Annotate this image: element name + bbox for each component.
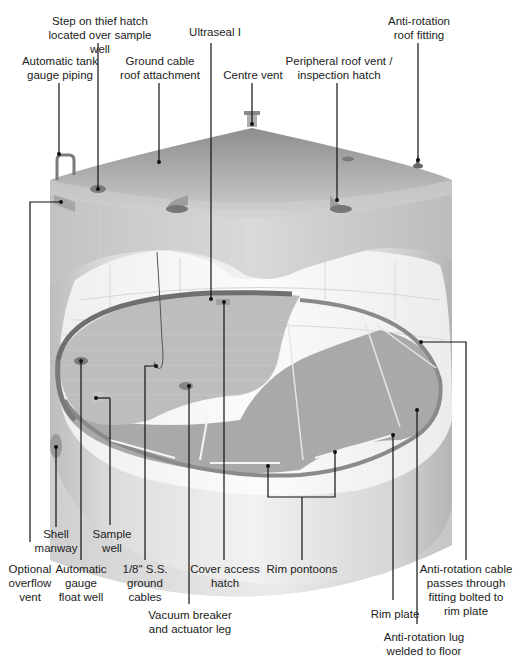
label-sample-well: Sample well [90, 527, 134, 555]
label-optional-overflow-vent: Optional overflow vent [4, 562, 56, 604]
label-ground-cables: 1/8" S.S. ground cables [116, 562, 174, 604]
label-anti-rotation-roof-fitting: Anti-rotation roof fitting [378, 14, 460, 42]
tank-diagram: Step on thief hatch located over sample … [0, 0, 520, 665]
label-rim-plate: Rim plate [368, 607, 422, 621]
label-centre-vent: Centre vent [220, 68, 286, 82]
label-vacuum-breaker: Vacuum breaker and actuator leg [148, 608, 232, 636]
label-anti-rotation-lug: Anti-rotation lug welded to floor [374, 630, 474, 658]
label-shell-manway: Shell manway [34, 527, 78, 555]
label-ground-cable-roof-attachment: Ground cable roof attachment [118, 54, 202, 82]
label-anti-rotation-cable: Anti-rotation cable passes through fitti… [414, 562, 518, 618]
label-cover-access-hatch: Cover access hatch [190, 562, 260, 590]
label-automatic-gauge-float-well: Automatic gauge float well [55, 562, 107, 604]
label-ultraseal: Ultraseal I [180, 25, 250, 39]
label-automatic-tank-gauge-piping: Automatic tank gauge piping [18, 54, 102, 82]
label-peripheral-roof-vent: Peripheral roof vent / inspection hatch [283, 54, 395, 82]
label-rim-pontoons: Rim pontoons [262, 562, 342, 576]
label-step-on-thief-hatch: Step on thief hatch located over sample … [40, 14, 160, 56]
